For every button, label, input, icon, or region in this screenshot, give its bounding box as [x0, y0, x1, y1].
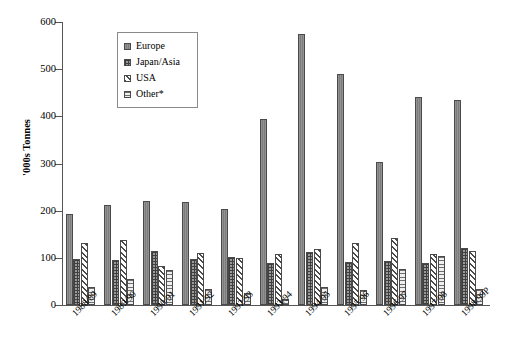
bar [454, 100, 461, 305]
legend-label: Other* [136, 89, 164, 99]
legend-swatch-icon [124, 91, 131, 98]
bar [306, 252, 313, 305]
bar-group [260, 22, 290, 305]
bar [415, 97, 422, 305]
bar-group [221, 22, 251, 305]
bar [345, 262, 352, 305]
y-tick-label: 100 [16, 253, 56, 263]
y-tick-mark [55, 22, 63, 23]
bar [228, 257, 235, 305]
bar [260, 119, 267, 305]
y-tick-label: 0 [16, 300, 56, 310]
y-tick-label: 500 [16, 64, 56, 74]
bar-chart: '000s Tonnes 0100200300400500600 1988/89… [0, 0, 508, 358]
y-tick-label: 400 [16, 111, 56, 121]
y-tick-mark [55, 69, 63, 70]
y-tick-label: 300 [16, 159, 56, 169]
bar [298, 34, 305, 305]
legend-item: Other* [124, 86, 197, 102]
legend-item: USA [124, 70, 197, 86]
y-tick-label: 600 [16, 17, 56, 27]
y-tick-mark [55, 211, 63, 212]
legend-item: Japan/Asia [124, 54, 197, 70]
bar-group [415, 22, 445, 305]
legend-label: Japan/Asia [136, 57, 180, 67]
chart-legend: EuropeJapan/AsiaUSAOther* [117, 32, 198, 108]
bar [112, 260, 119, 305]
bar [461, 248, 468, 305]
bar [384, 261, 391, 305]
bar [190, 259, 197, 305]
bar-group [337, 22, 367, 305]
legend-item: Europe [124, 38, 197, 54]
legend-label: Europe [136, 41, 165, 51]
bar [376, 162, 383, 305]
bar [337, 74, 344, 305]
bar-group [376, 22, 406, 305]
bar [104, 205, 111, 305]
legend-swatch-icon [124, 59, 131, 66]
y-tick-mark [55, 258, 63, 259]
y-tick-label: 200 [16, 206, 56, 216]
legend-label: USA [136, 73, 156, 83]
bar [73, 259, 80, 305]
bar [267, 263, 274, 305]
bar-group [298, 22, 328, 305]
y-tick-mark [55, 116, 63, 117]
bar [182, 202, 189, 305]
bar-group [454, 22, 484, 305]
y-tick-mark [55, 164, 63, 165]
bar [66, 214, 73, 305]
bar [151, 251, 158, 305]
bar [143, 201, 150, 305]
bar [221, 209, 228, 305]
bar [422, 263, 429, 305]
y-tick-mark [55, 305, 63, 306]
legend-swatch-icon [124, 43, 131, 50]
bar-group [66, 22, 96, 305]
legend-swatch-icon [124, 75, 131, 82]
